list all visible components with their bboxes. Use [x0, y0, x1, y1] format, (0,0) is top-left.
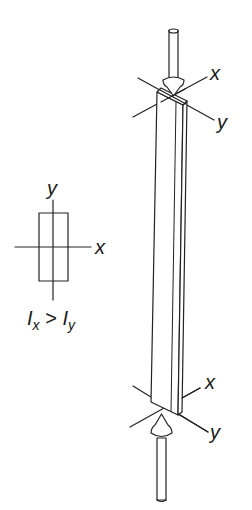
cross-section-y-label: y	[47, 178, 57, 198]
top-rod-end	[169, 29, 178, 33]
ix-subscript: x	[33, 317, 40, 333]
top-y-label: y	[217, 112, 227, 132]
cross-section-x-label: x	[95, 237, 105, 257]
column	[151, 88, 187, 415]
bottom-y-axis-front	[178, 414, 208, 432]
top-rod	[169, 30, 178, 80]
top-load	[163, 29, 184, 96]
moment-of-inertia-inequality: Ix > Iy	[27, 308, 75, 332]
greater-than-symbol: >	[45, 307, 57, 329]
bottom-y-label: y	[210, 422, 220, 442]
bottom-x-label: x	[205, 372, 215, 392]
bottom-load	[151, 414, 172, 502]
bottom-rod	[157, 438, 166, 500]
bottom-arrowhead	[151, 414, 172, 437]
iy-subscript: y	[68, 317, 75, 333]
cross-section	[15, 200, 91, 300]
bottom-x-axis-front	[182, 388, 200, 398]
top-x-label: x	[210, 63, 220, 83]
